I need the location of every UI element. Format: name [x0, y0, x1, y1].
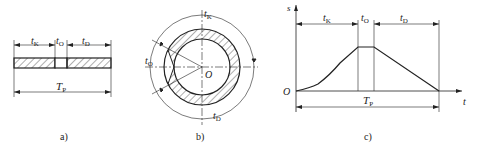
label-to-b: tO [145, 55, 153, 68]
origin-label: O [283, 86, 290, 97]
label-tk-a: tK [31, 35, 39, 48]
label-tp-c: TP [363, 94, 373, 108]
x-axis-label: t [463, 96, 466, 107]
panel-c [296, 5, 462, 112]
label-td-a: tD [82, 35, 90, 48]
caption-c: c) [364, 131, 372, 143]
label-to-c: tO [361, 12, 369, 25]
caption-b: b) [196, 131, 204, 143]
label-center-b: O [205, 69, 212, 80]
figure: tK tO tD TP a) tK tO tD O b) [0, 0, 478, 151]
label-to-a: tO [56, 35, 64, 48]
panel-b [145, 10, 258, 125]
label-tp-a: TP [56, 80, 66, 94]
caption-a: a) [60, 131, 68, 143]
label-tk-c: tK [323, 12, 331, 25]
label-tk-b: tK [204, 8, 212, 21]
label-td-b: tD [213, 110, 221, 123]
y-axis-label: s [287, 3, 291, 13]
label-td-c: tD [400, 12, 408, 25]
